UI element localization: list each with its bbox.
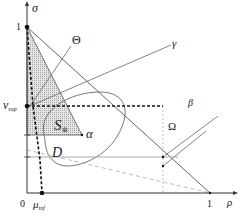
nu-sup-label: νsup: [3, 99, 17, 112]
s-region-label: S⊚: [54, 118, 68, 134]
gamma-label: γ: [172, 38, 176, 49]
point-beta-base: [162, 156, 164, 158]
alpha-label: α: [86, 127, 93, 140]
point-omega-base: [162, 165, 164, 167]
sigma-axis-label: σ: [32, 2, 38, 14]
rho-one-label: 1: [207, 199, 212, 209]
mu-inf-label: μinf: [33, 199, 45, 211]
rho-axis-label: ρ: [227, 197, 232, 208]
phase-diagram: [0, 0, 246, 218]
origin-label: 0: [20, 199, 25, 209]
rho-axis-arrow-icon: [233, 191, 238, 195]
omega-label: Ω: [168, 121, 176, 132]
s-subscript: ⊚: [62, 126, 68, 134]
point-sigma-one: [25, 25, 30, 30]
point-nu-sup: [25, 104, 30, 109]
point-alpha: [81, 134, 83, 136]
sigma-one-label: 1: [16, 22, 21, 32]
omega-line: [163, 131, 206, 166]
point-mu-inf: [40, 191, 45, 196]
s-symbol: S: [54, 117, 62, 133]
beta-label: β: [188, 98, 193, 108]
d-region-label: D: [52, 146, 62, 160]
sigma-axis-arrow-icon: [25, 1, 29, 6]
theta-label: Θ: [72, 34, 81, 46]
nu-subscript: sup: [8, 106, 16, 112]
point-rho-one: [209, 192, 211, 194]
mu-subscript: inf: [39, 205, 45, 211]
